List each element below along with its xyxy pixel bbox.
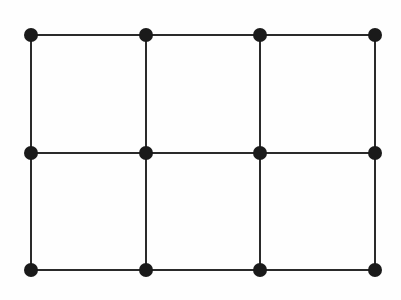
graph-node-v-1-3: [368, 146, 382, 160]
graph-node-v-2-1: [139, 263, 153, 277]
graph-edges: [31, 35, 375, 270]
graph-node-v-0-1: [139, 28, 153, 42]
graph-node-v-1-1: [139, 146, 153, 160]
graph-node-v-1-2: [253, 146, 267, 160]
graph-node-v-0-3: [368, 28, 382, 42]
graph-node-v-2-2: [253, 263, 267, 277]
grid-graph-canvas: [0, 0, 401, 300]
grid-graph-figure: [0, 0, 401, 300]
graph-node-v-0-2: [253, 28, 267, 42]
graph-node-v-2-3: [368, 263, 382, 277]
graph-node-v-2-0: [24, 263, 38, 277]
graph-node-v-0-0: [24, 28, 38, 42]
graph-node-v-1-0: [24, 146, 38, 160]
